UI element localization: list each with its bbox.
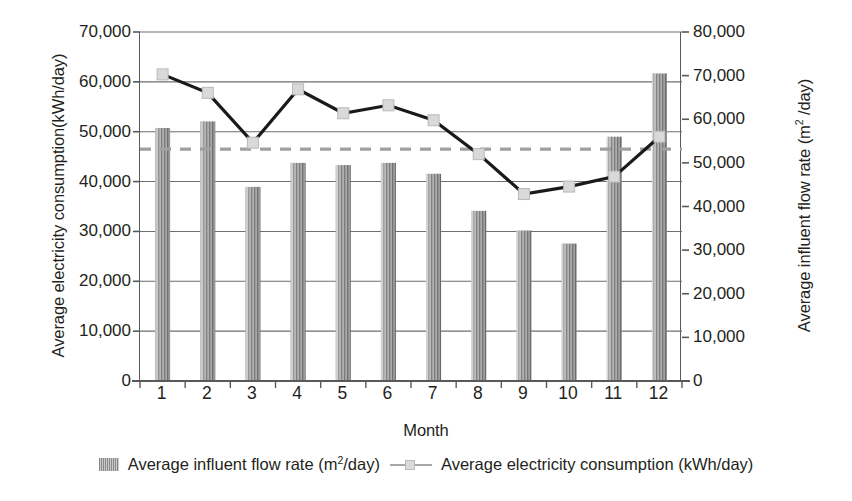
y-axis-right-title-suffix: /day) xyxy=(795,79,813,120)
legend-label-suffix: /day) xyxy=(343,455,380,473)
y-axis-right-tick-60000: 60,000 xyxy=(693,110,745,127)
y-axis-right-tick-80000: 80,000 xyxy=(693,23,745,40)
y-axis-left-tick-0: 0 xyxy=(122,372,131,389)
y-axis-right-tick-0: 0 xyxy=(693,372,702,389)
line-marker-month-6 xyxy=(383,100,394,111)
x-axis-tick-label-4: 4 xyxy=(292,385,302,403)
bar-shading-month-10 xyxy=(562,244,577,381)
y-axis-left-tick-60000: 60,000 xyxy=(79,73,131,90)
bar-shading-month-9 xyxy=(516,230,531,381)
legend-item-influent-flow-rate[interactable]: Average influent flow rate (m2/day) xyxy=(99,455,380,474)
x-axis-tick-label-7: 7 xyxy=(428,385,438,403)
bar-shading-month-6 xyxy=(381,163,396,381)
y-axis-left-tick-40000: 40,000 xyxy=(79,173,131,190)
bar-shading-month-3 xyxy=(245,187,260,381)
gridlines xyxy=(140,32,682,331)
x-axis-tick-labels: 123456789101112 xyxy=(139,385,681,411)
x-axis-tick-label-5: 5 xyxy=(337,385,347,403)
plot-svg xyxy=(140,32,682,381)
line-marker-month-5 xyxy=(338,108,349,119)
y-axis-left-tick-70000: 70,000 xyxy=(79,23,131,40)
bar-shading-month-4 xyxy=(291,163,306,381)
y-axis-right-tick-marks xyxy=(682,32,689,381)
x-axis-tick-label-11: 11 xyxy=(604,385,622,403)
y-axis-left-tick-30000: 30,000 xyxy=(79,222,131,239)
line-marker-month-8 xyxy=(473,149,484,160)
y-axis-right-tick-50000: 50,000 xyxy=(693,154,745,171)
electricity-consumption-line xyxy=(163,74,660,194)
bar-shading-month-8 xyxy=(471,211,486,381)
line-marker-month-10 xyxy=(564,181,575,192)
line-marker-swatch-icon xyxy=(390,458,432,471)
bar-shading-month-1 xyxy=(155,128,170,381)
x-axis-tick-label-2: 2 xyxy=(202,385,212,403)
line-series xyxy=(163,74,660,194)
line-marker-month-4 xyxy=(293,84,304,95)
y-axis-right-title-prefix: Average influent flow rate (m xyxy=(795,125,813,332)
plot-area xyxy=(139,32,681,381)
line-marker-month-9 xyxy=(518,189,529,200)
line-marker-month-12 xyxy=(654,131,665,142)
bar-swatch-icon xyxy=(99,458,119,471)
legend-label-electricity-consumption: Average electricity consumption (kWh/day… xyxy=(441,455,753,474)
y-axis-right-tick-70000: 70,000 xyxy=(693,67,745,84)
y-axis-right-title-superscript: 2 xyxy=(793,120,805,126)
bar-shading-month-12 xyxy=(652,73,667,381)
y-axis-left-tick-20000: 20,000 xyxy=(79,272,131,289)
x-axis-tick-label-8: 8 xyxy=(473,385,483,403)
y-axis-right-tick-20000: 20,000 xyxy=(693,285,745,302)
y-axis-left-tick-marks xyxy=(133,32,140,381)
x-axis-tick-label-6: 6 xyxy=(383,385,393,403)
legend-label-prefix: Average influent flow rate (m xyxy=(128,455,338,473)
x-axis-tick-label-3: 3 xyxy=(247,385,257,403)
line-marker-month-1 xyxy=(157,69,168,80)
y-axis-left-tick-10000: 10,000 xyxy=(79,322,131,339)
x-axis-tick-label-1: 1 xyxy=(157,385,167,403)
y-axis-right-tick-10000: 10,000 xyxy=(693,328,745,345)
y-axis-left-tick-50000: 50,000 xyxy=(79,123,131,140)
legend-item-electricity-consumption[interactable]: Average electricity consumption (kWh/day… xyxy=(390,455,753,474)
line-markers xyxy=(157,69,665,200)
line-marker-month-3 xyxy=(247,137,258,148)
bar-shading-month-7 xyxy=(426,174,441,381)
line-marker-month-7 xyxy=(428,115,439,126)
x-axis-tick-label-12: 12 xyxy=(649,385,668,403)
x-axis-tick-label-10: 10 xyxy=(558,385,577,403)
legend-label-influent-flow-rate: Average influent flow rate (m2/day) xyxy=(128,455,380,474)
chart-legend: Average influent flow rate (m2/day) Aver… xyxy=(0,455,852,474)
y-axis-right-title: Average influent flow rate (m2 /day) xyxy=(795,31,814,381)
bar-shading-month-2 xyxy=(200,121,215,381)
x-axis-tick-label-9: 9 xyxy=(518,385,528,403)
y-axis-right-tick-40000: 40,000 xyxy=(693,198,745,215)
x-axis-title: Month xyxy=(0,421,852,440)
line-marker-month-2 xyxy=(202,87,213,98)
bar-shading-month-5 xyxy=(336,165,351,381)
y-axis-right-tick-30000: 30,000 xyxy=(693,241,745,258)
chart-figure: Average electricity consumption(kWh/day)… xyxy=(0,0,852,501)
line-marker-month-11 xyxy=(609,171,620,182)
